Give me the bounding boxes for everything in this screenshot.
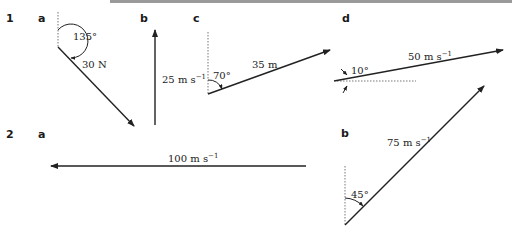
angle-1a: 135° (73, 31, 97, 42)
magnitude-1a: 30 N (82, 59, 107, 70)
magnitude-2a: 100 m s−1 (168, 152, 218, 164)
vector-diagrams: 135° 30 N 25 m s−1 70° 35 m 10° 50 m s−1… (0, 0, 512, 231)
arrow-2b (345, 86, 484, 225)
vector-1a: 135° 30 N (58, 12, 134, 126)
magnitude-1b: 25 m s−1 (162, 73, 206, 85)
vector-2b: 45° 75 m s−1 (345, 86, 484, 225)
angle-2b: 45° (351, 189, 369, 200)
angle-arc-1c (208, 80, 222, 89)
angle-pointer-bottom-1d (343, 86, 347, 93)
angle-1d: 10° (351, 65, 369, 76)
vector-2a: 100 m s−1 (51, 152, 306, 166)
vector-1b: 25 m s−1 (155, 30, 206, 125)
vector-1c: 70° 35 m (208, 32, 330, 94)
magnitude-1c: 35 m (252, 59, 278, 70)
vector-1d: 10° 50 m s−1 (334, 50, 503, 93)
angle-pointer-top-1d (341, 69, 347, 75)
angle-1c: 70° (213, 70, 231, 81)
